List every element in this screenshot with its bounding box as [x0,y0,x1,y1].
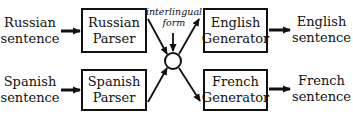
interlingual-form-label: interlingual form [143,6,205,28]
russian-sentence-label: Russian sentence [0,15,60,47]
english-sentence-label: English sentence [290,14,353,46]
english-generator-box: English Generator [203,8,268,53]
spanish-sentence-label: Spanish sentence [0,74,60,106]
french-sentence-label: French sentence [290,73,353,105]
arrow-interlingua-to-french [179,68,200,101]
interlingua-node [165,53,181,69]
french-generator-box: French Generator [203,69,268,111]
arrow-spanish-to-interlingua [148,68,167,102]
spanish-parser-box: Spanish Parser [81,69,147,111]
russian-parser-box: Russian Parser [81,8,147,53]
